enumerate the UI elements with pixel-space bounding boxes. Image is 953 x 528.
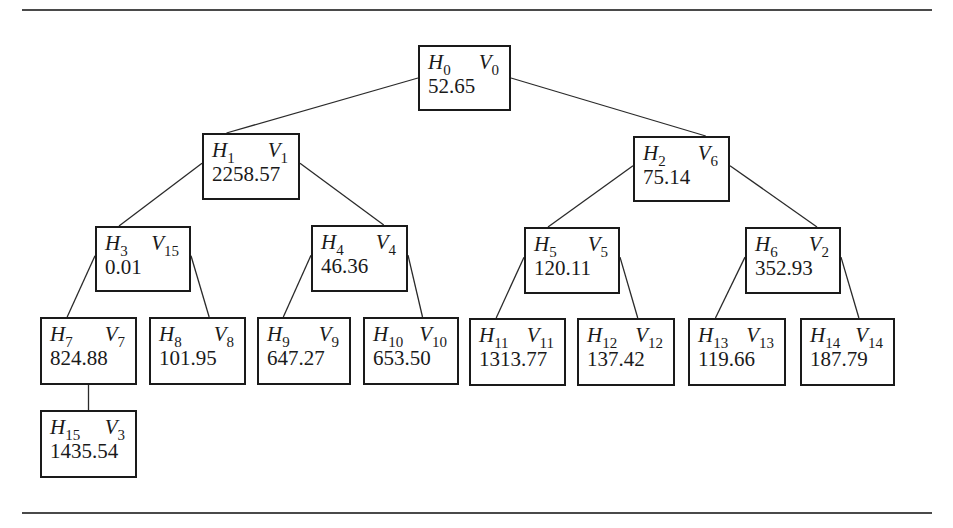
node-v-label: V6 xyxy=(698,142,718,164)
node-h-label: H7 xyxy=(50,322,73,346)
node-h-label: H5 xyxy=(534,232,557,256)
node-value: 75.14 xyxy=(643,166,728,188)
node-v-label: V5 xyxy=(588,233,608,255)
edge-1-4 xyxy=(300,163,384,225)
tree-node-10: H10 V10 653.50 xyxy=(363,317,459,385)
node-label: H4 V4 xyxy=(321,231,406,255)
node-value: 52.65 xyxy=(428,75,509,97)
edge-3-7 xyxy=(67,256,95,317)
edge-4-9 xyxy=(283,255,311,317)
node-label: H9 V9 xyxy=(267,323,349,347)
node-value: 46.36 xyxy=(321,255,406,277)
node-h-label: H12 xyxy=(587,323,617,347)
edge-2-5 xyxy=(548,166,633,227)
edge-4-10 xyxy=(408,255,423,317)
tree-node-13: H13 V13 119.66 xyxy=(688,318,786,386)
node-label: H0 V0 xyxy=(428,51,509,75)
node-label: H1 V1 xyxy=(212,139,298,163)
edge-6-13 xyxy=(715,257,745,318)
tree-node-2: H2 V6 75.14 xyxy=(633,136,730,202)
node-value: 101.95 xyxy=(159,347,244,369)
node-value: 647.27 xyxy=(267,347,349,369)
edge-0-1 xyxy=(227,78,419,133)
node-label: H3 V15 xyxy=(105,232,189,256)
node-h-label: H6 xyxy=(755,232,778,256)
node-label: H13 V13 xyxy=(698,324,784,348)
node-value: 137.42 xyxy=(587,348,673,370)
tree-node-12: H12 V12 137.42 xyxy=(577,318,675,386)
tree-node-5: H5 V5 120.11 xyxy=(524,227,620,294)
node-value: 2258.57 xyxy=(212,163,298,185)
node-v-label: V15 xyxy=(151,232,179,254)
node-v-label: V9 xyxy=(319,323,339,345)
edge-5-11 xyxy=(496,257,524,318)
node-label: H15 V3 xyxy=(50,416,135,440)
node-v-label: V1 xyxy=(268,139,288,161)
node-h-label: H10 xyxy=(373,322,403,346)
node-v-label: V2 xyxy=(809,233,829,255)
node-h-label: H4 xyxy=(321,230,344,254)
node-h-label: H14 xyxy=(810,323,840,347)
node-value: 352.93 xyxy=(755,257,839,279)
node-label: H2 V6 xyxy=(643,142,728,166)
node-label: H12 V12 xyxy=(587,324,673,348)
node-v-label: V4 xyxy=(376,231,396,253)
node-value: 1435.54 xyxy=(50,440,135,462)
node-value: 119.66 xyxy=(698,348,784,370)
edge-1-3 xyxy=(119,163,202,226)
node-h-label: H3 xyxy=(105,231,128,255)
tree-node-11: H11 V11 1313.77 xyxy=(469,318,566,386)
edge-3-8 xyxy=(191,256,209,317)
tree-node-4: H4 V4 46.36 xyxy=(311,225,408,292)
node-v-label: V14 xyxy=(855,324,883,346)
node-v-label: V0 xyxy=(479,51,499,73)
node-h-label: H8 xyxy=(159,322,182,346)
tree-node-3: H3 V15 0.01 xyxy=(95,226,191,292)
node-label: H14 V14 xyxy=(810,324,893,348)
node-label: H10 V10 xyxy=(373,323,457,347)
tree-node-6: H6 V2 352.93 xyxy=(745,227,841,294)
edge-0-2 xyxy=(511,78,706,136)
node-v-label: V10 xyxy=(419,323,447,345)
node-label: H8 V8 xyxy=(159,323,244,347)
edge-5-12 xyxy=(620,257,638,318)
tree-node-9: H9 V9 647.27 xyxy=(257,317,351,385)
node-h-label: H13 xyxy=(698,323,728,347)
tree-node-7: H7 V7 824.88 xyxy=(40,317,137,385)
node-v-label: V13 xyxy=(746,324,774,346)
node-h-label: H15 xyxy=(50,415,80,439)
node-v-label: V11 xyxy=(527,324,554,346)
tree-node-15: H15 V3 1435.54 xyxy=(40,410,137,478)
node-label: H6 V2 xyxy=(755,233,839,257)
node-value: 120.11 xyxy=(534,257,618,279)
edge-2-6 xyxy=(730,166,817,227)
edge-6-14 xyxy=(841,257,859,318)
node-v-label: V12 xyxy=(635,324,663,346)
tree-node-14: H14 V14 187.79 xyxy=(800,318,895,386)
tree-node-1: H1 V1 2258.57 xyxy=(202,133,300,200)
node-value: 1313.77 xyxy=(479,348,564,370)
node-v-label: V7 xyxy=(105,323,125,345)
node-label: H11 V11 xyxy=(479,324,564,348)
node-label: H7 V7 xyxy=(50,323,135,347)
node-h-label: H2 xyxy=(643,141,666,165)
node-h-label: H1 xyxy=(212,138,235,162)
node-h-label: H0 xyxy=(428,50,451,74)
node-v-label: V3 xyxy=(105,416,125,438)
node-h-label: H11 xyxy=(479,323,509,347)
node-v-label: V8 xyxy=(214,323,234,345)
tree-node-8: H8 V8 101.95 xyxy=(149,317,246,385)
node-value: 653.50 xyxy=(373,347,457,369)
node-value: 0.01 xyxy=(105,256,189,278)
node-h-label: H9 xyxy=(267,322,290,346)
node-label: H5 V5 xyxy=(534,233,618,257)
node-value: 187.79 xyxy=(810,348,893,370)
tree-node-0: H0 V0 52.65 xyxy=(418,45,511,111)
node-value: 824.88 xyxy=(50,347,135,369)
